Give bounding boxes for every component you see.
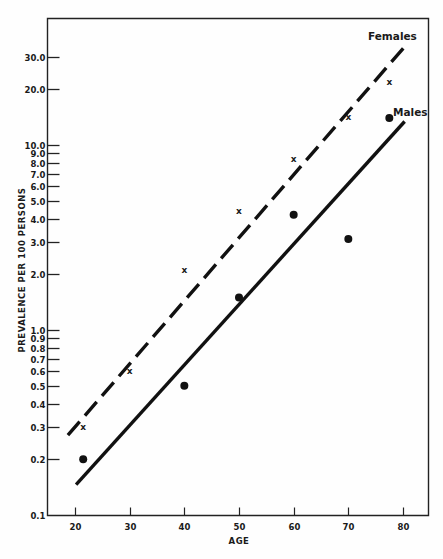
y-tick-label: 0.1 [30,511,45,521]
y-tick-label: 4.0 [30,215,45,225]
x-tick-label: 30 [125,522,137,532]
fit-lines [68,47,405,485]
x-tick-label: 80 [398,522,410,532]
female-x-marker: x [291,154,297,164]
x-tick-label: 40 [179,522,191,532]
y-tick-label: 0.6 [30,367,45,377]
y-tick-label: 0.8 [30,344,45,354]
female-x-marker: x [181,265,187,275]
y-tick-label: 10.0 [25,141,46,151]
x-tick-label: 20 [70,522,82,532]
y-axis-title: PREVALENCE PER 100 PERSONS [17,188,27,353]
x-tick-label: 70 [343,522,355,532]
y-tick-label: 7.0 [30,170,45,180]
y-tick-label: 5.0 [30,197,45,207]
plot-frame [48,19,429,516]
males-fit-line [76,121,405,484]
y-tick-label: 0.7 [30,355,45,365]
x-axis-ticks: 20304050607080 [70,508,410,532]
male-dot-marker [180,382,188,390]
female-x-marker: x [127,366,133,376]
chart-canvas: 0.10.20.30.40.50.60.70.80.91.02.03.04.05… [0,0,443,559]
y-axis-ticks: 0.10.20.30.40.50.60.70.80.91.02.03.04.05… [25,53,60,521]
y-tick-label: 30.0 [25,53,46,63]
male-dot-marker [79,455,87,463]
y-tick-label: 1.0 [30,326,45,336]
y-tick-label: 2.0 [30,270,45,280]
y-tick-label: 0.4 [30,400,45,410]
female-x-marker: x [236,206,242,216]
x-tick-label: 60 [289,522,301,532]
female-x-marker: x [80,422,86,432]
males-series-label: Males [393,106,428,118]
male-dot-marker [290,211,298,219]
females-series-label: Females [368,30,417,42]
y-tick-label: 0.2 [30,455,45,465]
y-tick-label: 0.5 [30,382,45,392]
females-fit-line [68,47,405,436]
y-tick-label: 6.0 [30,182,45,192]
female-x-marker: x [345,112,351,122]
male-dot-marker [344,235,352,243]
female-x-marker: x [386,77,392,87]
y-tick-label: 0.3 [30,423,45,433]
x-tick-label: 50 [234,522,246,532]
male-dot-marker [235,293,243,301]
data-points: xxxxxxx [79,77,393,464]
y-tick-label: 20.0 [25,85,46,95]
y-tick-label: 8.0 [30,159,45,169]
x-axis-title: AGE [229,536,250,546]
plot-border [48,19,429,516]
y-tick-label: 3.0 [30,238,45,248]
